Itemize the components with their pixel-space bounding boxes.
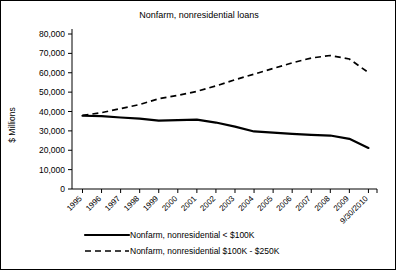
- y-tick-label: 80,000: [39, 29, 65, 39]
- line-chart: Nonfarm, nonresidential loans $ Millions…: [1, 1, 396, 270]
- x-tick-label: 1999: [141, 194, 160, 213]
- x-tick-label: 1998: [122, 194, 141, 213]
- y-tick-label: 60,000: [39, 68, 65, 78]
- x-tick-label: 2008: [313, 194, 332, 213]
- chart-canvas: Nonfarm, nonresidential loans $ Millions…: [1, 1, 396, 270]
- legend-label-2: Nonfarm, nonresidential $100K - $250K: [130, 246, 280, 256]
- x-tick-label: 2005: [256, 194, 275, 213]
- x-tick-label: 2004: [237, 194, 256, 213]
- x-tick-label: 2003: [217, 194, 236, 213]
- chart-screenshot: Nonfarm, nonresidential loans $ Millions…: [0, 0, 396, 270]
- chart-title: Nonfarm, nonresidential loans: [139, 10, 259, 20]
- y-tick-label: 50,000: [39, 87, 65, 97]
- y-axis-title: $ Millions: [7, 107, 17, 142]
- x-tick-label: 1995: [65, 194, 84, 213]
- y-tick-label: 70,000: [39, 48, 65, 58]
- data-series-group: [82, 56, 368, 148]
- y-tick-label: 20,000: [39, 145, 65, 155]
- y-tick-label: 0: [60, 184, 65, 194]
- y-tick-label: 10,000: [39, 165, 65, 175]
- x-axis-ticks: 1995199619971998199920002001200220032004…: [65, 189, 377, 226]
- x-tick-label: 2001: [179, 194, 198, 213]
- x-tick-label: 2002: [198, 194, 217, 213]
- series-line-2: [82, 56, 368, 116]
- x-tick-label: 1996: [84, 194, 103, 213]
- y-tick-label: 40,000: [39, 107, 65, 117]
- x-tick-label: 2007: [294, 194, 313, 213]
- x-tick-label: 2000: [160, 194, 179, 213]
- y-tick-label: 30,000: [39, 126, 65, 136]
- y-axis-ticks: 80,00070,00060,00050,00040,00030,00020,0…: [39, 29, 72, 194]
- legend-label-1: Nonfarm, nonresidential < $100K: [130, 230, 255, 240]
- series-line-1: [82, 116, 368, 148]
- chart-legend: Nonfarm, nonresidential < $100KNonfarm, …: [85, 230, 280, 256]
- x-tick-label: 1997: [103, 194, 122, 213]
- x-tick-label: 2006: [275, 194, 294, 213]
